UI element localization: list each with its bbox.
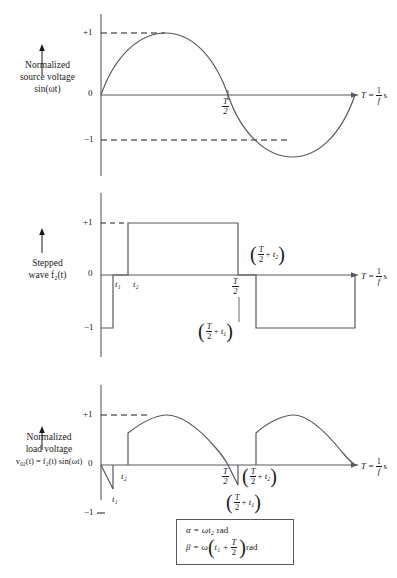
panel2-half-plus-t2-label: ( T 2 + t2 ) (250, 245, 285, 263)
panel3-period-prefix: T = (361, 461, 374, 471)
panel3-half-plus-t2-label: ( T 2 + t2 ) (242, 467, 277, 485)
panel1-label-line2: source voltage (0, 72, 95, 84)
panel2-ytick-plus1: +1 (83, 217, 93, 227)
panel3-ytick-zero: 0 (88, 458, 93, 468)
panel2-label-line2: wave f₂(t) (0, 270, 95, 282)
beta-frac-den: 2 (231, 548, 238, 557)
panel3-half-plus-t1-label: ( T 2 + t1 ) (226, 493, 261, 511)
panel1-period-prefix: T = (361, 90, 374, 100)
panel2-period-den: f (376, 277, 382, 286)
formula-box: α = ωt₂ rad β = ω ( t₁ + T 2 ) rad (176, 519, 294, 565)
panel2-half-den: 2 (232, 287, 239, 296)
panel1-ytick-minus1: −1 (84, 134, 94, 144)
panel1-label-line3: sin(ωt) (0, 84, 95, 96)
panel1-half-period-label: T 2 (222, 97, 229, 115)
panel1-label-line1: Normalized (0, 60, 95, 72)
panel1-axis-label: Normalized source voltage sin(ωt) (0, 60, 95, 96)
panel3-period-den: f (376, 467, 382, 476)
panel3-second-arc (256, 415, 355, 465)
panel1-ytick-zero: 0 (88, 88, 93, 98)
panel2-ytick-zero: 0 (88, 268, 93, 278)
panel1-period-unit: s (383, 90, 387, 100)
panel2-half-period-label: T 2 (232, 277, 239, 295)
panel3-axis-label: Normalized load voltage v₀₂(t) = f₂(t) s… (0, 432, 98, 466)
panel1-half-den: 2 (222, 107, 229, 116)
panel2-axis-label: Stepped wave f₂(t) (0, 258, 95, 282)
panel3-t1-label: t₁ (112, 494, 118, 504)
panel2-t2-label: t₂ (133, 279, 139, 289)
panel3-period-unit: s (383, 461, 387, 471)
panel3-ytick-minus1: −1 (84, 507, 94, 517)
panel2-ytick-minus1: −1 (84, 322, 94, 332)
panel2-period-label: T = 1 f s (361, 267, 387, 285)
panel3-mid-notch (228, 465, 238, 485)
beta-t1: t₁ + (215, 542, 229, 552)
alpha-unit: rad (217, 525, 229, 535)
waveform-figure: Normalized source voltage sin(ωt) +1 0 −… (0, 0, 397, 578)
panel1-ytick-plus1: +1 (83, 27, 93, 37)
beta-unit: rad (246, 542, 258, 552)
panel2-t1-label: t₁ (115, 279, 121, 289)
panel2-label-arrow-head (39, 228, 45, 235)
alpha-equals: = (194, 525, 199, 535)
panel3-half-period-label: T 2 (222, 467, 229, 485)
alpha-rhs: ωt₂ (202, 525, 214, 535)
panel3-ytick-plus1: +1 (83, 409, 93, 419)
panel3-t2-label: t₂ (121, 471, 127, 481)
beta-equals: = (193, 542, 198, 552)
beta-symbol: β (186, 542, 190, 552)
panel3-label-line1: Normalized (0, 432, 98, 444)
panel1-period-label: T = 1 f s (361, 86, 387, 104)
alpha-symbol: α (186, 525, 191, 535)
panel2-period-prefix: T = (361, 271, 374, 281)
panel3-label-line2: load voltage (0, 444, 98, 456)
panel2-period-unit: s (383, 271, 387, 281)
beta-formula: β = ω ( t₁ + T 2 ) rad (186, 538, 293, 556)
panel1-label-arrow-head (39, 44, 45, 51)
panel3-period-label: T = 1 f s (361, 457, 387, 475)
panel2-label-line1: Stepped (0, 258, 95, 270)
panel3-first-arc (128, 415, 228, 465)
panel3-half-den: 2 (222, 477, 229, 486)
panel1-period-den: f (376, 96, 382, 105)
panel3-initial-dip (101, 465, 113, 489)
alpha-formula: α = ωt₂ rad (186, 525, 293, 535)
panel2-half-plus-t1-label: ( T 2 + t1 ) (198, 322, 233, 340)
panel3-label-line3: v₀₂(t) = f₂(t) sin(ωt) (0, 456, 98, 467)
